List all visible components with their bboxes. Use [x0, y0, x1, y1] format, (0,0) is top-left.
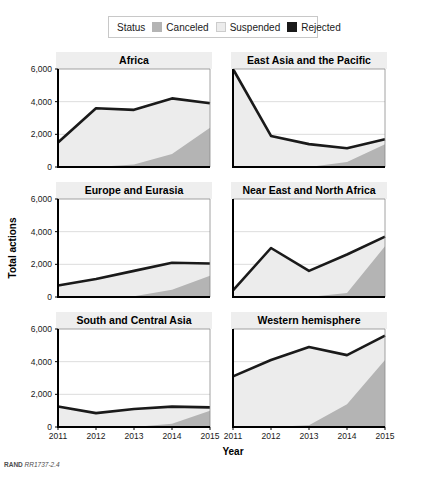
panel-title-text: Near East and North Africa: [242, 184, 375, 196]
x-tick-label: 2014: [338, 431, 357, 441]
figure-credit: RAND RR1737-2.4: [4, 461, 60, 468]
y-tick-label: 4,000: [31, 357, 53, 367]
y-tick-label: 6,000: [31, 194, 53, 204]
y-tick-label: 0: [47, 162, 52, 172]
x-tick-label: 2011: [224, 431, 243, 441]
x-tick-label: 2015: [376, 431, 395, 441]
panel-1: AfricaAfrica02,0004,0006,000: [31, 52, 212, 172]
panel-6: Western hemisphereWestern hemisphere2011…: [224, 312, 395, 441]
small-multiples-chart: AfricaAfrica02,0004,0006,000East Asia an…: [0, 0, 421, 483]
y-tick-label: 2,000: [31, 129, 53, 139]
credit-id: RR1737-2.4: [25, 461, 60, 468]
panel-title-text: East Asia and the Pacific: [247, 54, 371, 66]
x-axis-title: Year: [222, 446, 243, 457]
panel-title-text: Western hemisphere: [257, 314, 360, 326]
y-tick-label: 4,000: [31, 97, 53, 107]
y-tick-label: 2,000: [31, 259, 53, 269]
y-axis-title: Total actions: [7, 217, 18, 278]
y-tick-label: 6,000: [31, 324, 53, 334]
panel-title-text: Europe and Eurasia: [85, 184, 184, 196]
panel-2: East Asia and the PacificEast Asia and t…: [231, 52, 387, 167]
panel-title-text: South and Central Asia: [76, 314, 191, 326]
credit-org: RAND: [4, 461, 23, 468]
panel-5: South and Central AsiaSouth and Central …: [31, 312, 220, 441]
panel-4: Near East and North AfricaNear East and …: [231, 182, 387, 297]
y-tick-label: 0: [47, 292, 52, 302]
x-tick-label: 2013: [125, 431, 144, 441]
x-tick-label: 2012: [262, 431, 281, 441]
panel-title-text: Africa: [119, 54, 149, 66]
x-tick-label: 2011: [49, 431, 68, 441]
y-tick-label: 2,000: [31, 389, 53, 399]
x-tick-label: 2013: [300, 431, 319, 441]
panel-3: Europe and EurasiaEurope and Eurasia02,0…: [31, 182, 212, 302]
x-tick-label: 2014: [163, 431, 182, 441]
y-tick-label: 4,000: [31, 227, 53, 237]
x-tick-label: 2012: [87, 431, 106, 441]
x-tick-label: 2015: [201, 431, 220, 441]
y-tick-label: 6,000: [31, 64, 53, 74]
